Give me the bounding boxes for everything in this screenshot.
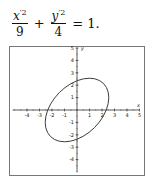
equation-rhs: 1. — [87, 16, 99, 31]
y-tick-label: 1 — [71, 94, 74, 100]
fraction-y-term: y′2 4 — [51, 9, 67, 38]
x-tick-label: -1 — [62, 112, 67, 118]
x-tick-label: 3 — [113, 112, 116, 118]
y-tick-label: 4 — [71, 57, 74, 63]
y-tick-label: -2 — [69, 132, 74, 138]
x-tick-label: 5 — [138, 112, 141, 118]
x-tick-label: -3 — [37, 112, 42, 118]
y-tick-label: 5 — [71, 46, 74, 51]
x-prime-power: ′2 — [20, 8, 27, 17]
x-axis-label: x — [136, 102, 140, 108]
y-tick-label: 3 — [71, 70, 74, 76]
x-tick-label: -2 — [50, 112, 55, 118]
equals-sign: = — [72, 16, 83, 31]
x-tick-label: 1 — [88, 112, 91, 118]
x-tick-label: -4 — [25, 112, 30, 118]
ellipse-equation: x′2 9 + y′2 4 = 1. — [10, 6, 100, 40]
fraction-x-term: x′2 9 — [12, 9, 28, 38]
x-denominator: 9 — [16, 24, 24, 38]
x-variable: x — [13, 9, 20, 23]
ellipse-plot: -4-3-2-112345-4-3-2-112345xy — [9, 46, 145, 176]
y-tick-label: -3 — [69, 144, 74, 150]
plot-canvas: -4-3-2-112345-4-3-2-112345xy — [9, 46, 145, 176]
y-prime-power: ′2 — [58, 8, 65, 17]
y-denominator: 4 — [55, 24, 63, 38]
x-tick-label: 4 — [125, 112, 128, 118]
y-tick-label: -4 — [69, 156, 74, 162]
plus-sign: + — [34, 16, 45, 31]
y-tick-label: -1 — [69, 119, 74, 125]
